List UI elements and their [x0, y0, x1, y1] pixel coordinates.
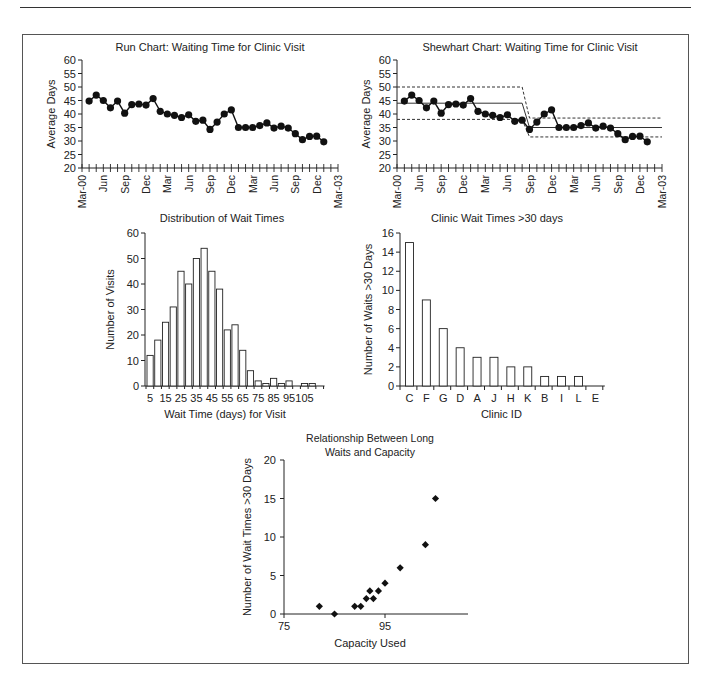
data-point [496, 114, 503, 121]
data-point [228, 106, 235, 113]
data-point [142, 101, 149, 108]
histogram-bar [255, 381, 261, 386]
histogram-bar [147, 355, 153, 386]
y-tick-label: 40 [379, 108, 391, 120]
data-point [519, 117, 526, 124]
histogram-bar [201, 248, 207, 386]
y-tick-label: 15 [264, 493, 276, 505]
data-point [629, 133, 636, 140]
histogram-bar [271, 378, 277, 386]
x-tick-label: Sep [524, 175, 536, 194]
x-tick-label: Jun [413, 175, 425, 192]
data-point [150, 95, 157, 102]
data-point [93, 92, 100, 99]
y-tick-label: 35 [379, 122, 391, 134]
y-tick-label: 55 [379, 68, 391, 80]
figure-canvas: Run Chart: Waiting Time for Clinic Visit… [0, 0, 711, 688]
x-tick-label: G [439, 392, 448, 404]
x-tick-label: Jun [590, 175, 602, 192]
histogram-bar [301, 383, 307, 386]
y-axis-label: Number of Visits [104, 269, 116, 350]
x-tick-label: C [405, 392, 413, 404]
data-point [192, 118, 199, 125]
y-tick-label: 20 [379, 162, 391, 174]
data-point [199, 117, 206, 124]
x-tick-label: 55 [221, 392, 233, 404]
pareto-bar [524, 367, 532, 386]
data-point [504, 111, 511, 118]
histogram-chart: Distribution of Wait Times0102030405060N… [104, 212, 325, 420]
data-point [86, 97, 93, 104]
x-axis-label: Wait Time (days) for Visit [164, 408, 286, 420]
data-point [100, 97, 107, 104]
data-point [107, 104, 114, 111]
data-point [128, 101, 135, 108]
x-tick-label: Sep [435, 175, 447, 194]
x-tick-label: L [575, 392, 581, 404]
pareto-bar [456, 348, 464, 386]
series-line [89, 95, 324, 142]
x-tick-label: F [423, 392, 430, 404]
scatter-point-diamond [331, 610, 338, 617]
data-point [114, 97, 121, 104]
histogram-bar [278, 383, 284, 386]
x-axis-label: Capacity Used [334, 637, 406, 649]
data-point [555, 124, 562, 131]
chart-title: Clinic Wait Times >30 days [431, 212, 563, 224]
x-tick-label: E [592, 392, 599, 404]
x-tick-label: Mar [568, 175, 580, 194]
data-point [600, 123, 607, 130]
data-point [644, 138, 651, 145]
data-point [489, 112, 496, 119]
y-tick-label: 0 [133, 380, 139, 392]
x-tick-label: Jun [97, 175, 109, 192]
histogram-bar [232, 325, 238, 386]
x-tick-label: 65 [237, 392, 249, 404]
x-tick-label: Mar [479, 175, 491, 194]
y-tick-label: 55 [64, 68, 76, 80]
x-tick-label: Dec [311, 175, 323, 194]
x-tick-label: Jun [501, 175, 513, 192]
x-tick-label: Mar-03 [656, 175, 668, 208]
data-point [235, 124, 242, 131]
data-point [607, 124, 614, 131]
scatter-point-diamond [363, 595, 370, 602]
data-point [423, 104, 430, 111]
histogram-bar [247, 371, 253, 386]
x-tick-label: 95 [379, 620, 391, 632]
data-point [577, 122, 584, 129]
data-point [438, 110, 445, 117]
x-tick-label: 85 [267, 392, 279, 404]
data-point [306, 133, 313, 140]
y-tick-label: 2 [388, 361, 394, 373]
data-point [121, 110, 128, 117]
scatter-point-diamond [381, 580, 388, 587]
x-axis-label: Clinic ID [481, 408, 522, 420]
x-tick-label: Jun [268, 175, 280, 192]
x-tick-label: Mar-00 [391, 175, 403, 208]
data-point [292, 130, 299, 137]
data-point [533, 119, 540, 126]
y-tick-label: 8 [388, 304, 394, 316]
data-point [636, 133, 643, 140]
y-axis-label: Number of Waits >30 Days [362, 243, 374, 375]
y-tick-label: 16 [382, 227, 394, 239]
data-point [164, 110, 171, 117]
pareto-bar [558, 376, 566, 386]
histogram-bar [286, 381, 292, 386]
y-tick-label: 50 [379, 81, 391, 93]
y-tick-label: 4 [388, 342, 394, 354]
y-tick-label: 0 [388, 380, 394, 392]
pareto-bar [422, 300, 430, 386]
pareto-bar [405, 243, 413, 386]
scatter-point-diamond [422, 541, 429, 548]
data-point [415, 97, 422, 104]
x-tick-label: 25 [175, 392, 187, 404]
x-tick-label: Dec [457, 175, 469, 194]
y-tick-label: 0 [270, 608, 276, 620]
data-point [430, 97, 437, 104]
data-point [445, 101, 452, 108]
data-point [206, 126, 213, 133]
y-tick-label: 25 [379, 149, 391, 161]
x-tick-label: Dec [546, 175, 558, 194]
